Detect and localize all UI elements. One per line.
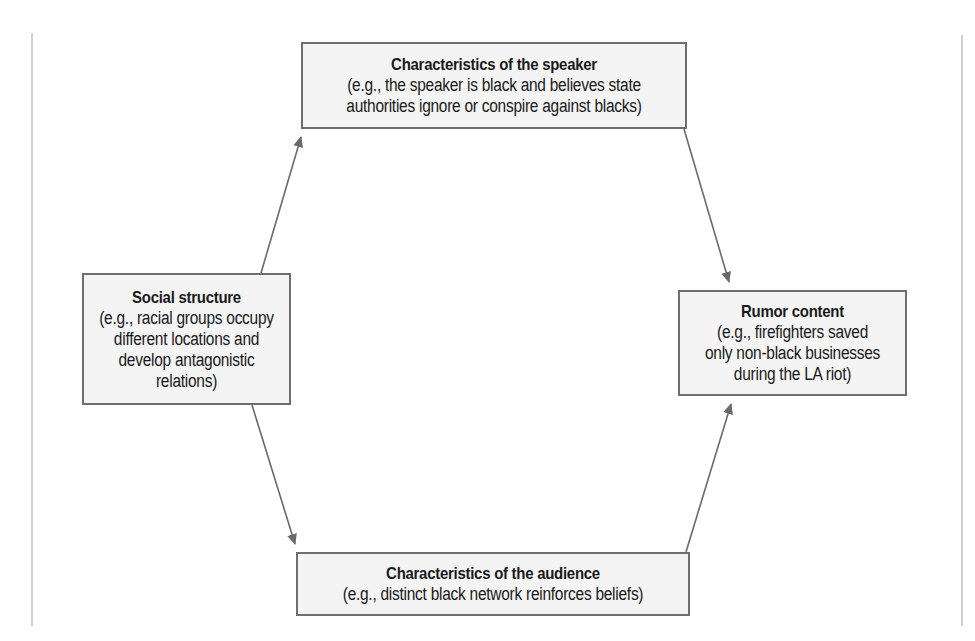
arrow-audience-to-rumor — [686, 404, 731, 552]
node-description-line: develop antagonistic — [98, 350, 274, 371]
node-title: Rumor content — [694, 301, 892, 322]
node-title: Characteristics of the speaker — [326, 54, 662, 75]
arrow-social-to-speaker — [261, 137, 301, 273]
node-description-line: only non-black businesses — [696, 343, 890, 364]
arrow-social-to-audience — [252, 405, 295, 544]
node-social-structure: Social structure (e.g., racial groups oc… — [82, 273, 291, 405]
node-description-line: (e.g., the speaker is black and believes… — [330, 75, 659, 96]
node-description-line: (e.g., racial groups occupy — [98, 308, 274, 329]
node-speaker-characteristics: Characteristics of the speaker (e.g., th… — [301, 42, 687, 129]
node-description-line: different locations and — [98, 329, 274, 350]
node-description-line: during the LA riot) — [696, 364, 890, 385]
node-description-line: authorities ignore or conspire against b… — [330, 96, 659, 117]
node-description-line: relations) — [98, 371, 274, 392]
node-description-line: (e.g., distinct black network reinforces… — [325, 584, 660, 605]
node-audience-characteristics: Characteristics of the audience (e.g., d… — [296, 552, 690, 616]
node-title: Characteristics of the audience — [321, 563, 664, 584]
arrow-speaker-to-rumor — [684, 129, 729, 282]
node-description-line: (e.g., firefighters saved — [696, 322, 890, 343]
node-title: Social structure — [96, 287, 276, 308]
node-rumor-content: Rumor content (e.g., firefighters saved … — [678, 290, 907, 396]
